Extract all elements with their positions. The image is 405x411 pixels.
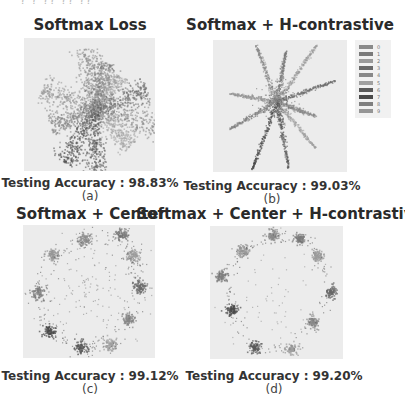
legend-swatch	[359, 109, 373, 113]
legend-swatch	[359, 102, 373, 106]
legend-swatch	[359, 81, 373, 85]
scatter-plot-d	[210, 226, 343, 359]
panel-d-plot	[210, 226, 343, 359]
legend-label: 2	[377, 58, 380, 64]
legend-item-8: 8	[359, 102, 380, 107]
legend-label: 1	[377, 51, 380, 57]
legend: 0123456789	[355, 40, 391, 118]
panel-a-accuracy: Testing Accuracy : 98.83%	[1, 176, 178, 190]
legend-swatch	[359, 66, 373, 70]
panel-b-accuracy: Testing Accuracy : 99.03%	[183, 179, 360, 193]
legend-item-5: 5	[359, 80, 380, 85]
legend-swatch	[359, 52, 373, 56]
legend-item-9: 9	[359, 109, 380, 114]
legend-label: 8	[377, 101, 380, 107]
legend-swatch	[359, 45, 373, 49]
panel-d-sublabel: (d)	[266, 382, 283, 396]
legend-swatch	[359, 95, 373, 99]
legend-label: 9	[377, 108, 380, 114]
legend-item-2: 2	[359, 58, 380, 63]
scatter-plot-a	[24, 38, 155, 171]
legend-swatch	[359, 73, 373, 77]
panel-d-accuracy: Testing Accuracy : 99.20%	[185, 369, 362, 383]
panel-b-plot	[213, 40, 347, 172]
panel-c-accuracy: Testing Accuracy : 99.12%	[1, 369, 178, 383]
scatter-plot-b	[213, 40, 347, 172]
legend-swatch	[359, 59, 373, 63]
legend-label: 0	[377, 44, 380, 50]
panel-c-plot	[23, 225, 155, 358]
legend-swatch	[359, 88, 373, 92]
cropped-top-text: ? ? ?? ?? ??	[20, 0, 93, 7]
panel-a-plot	[24, 38, 155, 171]
legend-item-3: 3	[359, 66, 380, 71]
legend-item-6: 6	[359, 87, 380, 92]
legend-item-4: 4	[359, 73, 380, 78]
legend-item-0: 0	[359, 44, 380, 49]
panel-c-sublabel: (c)	[82, 382, 98, 396]
panel-b-sublabel: (b)	[264, 192, 281, 206]
panel-a-title: Softmax Loss	[33, 16, 146, 34]
legend-label: 3	[377, 65, 380, 71]
legend-label: 6	[377, 87, 380, 93]
legend-label: 4	[377, 72, 380, 78]
legend-item-1: 1	[359, 51, 380, 56]
legend-label: 7	[377, 94, 380, 100]
legend-label: 5	[377, 80, 380, 86]
scatter-plot-c	[23, 225, 155, 358]
panel-b-title: Softmax + H-contrastive	[186, 16, 394, 34]
panel-a-sublabel: (a)	[82, 189, 99, 203]
panel-d-title: Softmax + Center + H-contrastive	[136, 205, 405, 223]
legend-item-7: 7	[359, 94, 380, 99]
